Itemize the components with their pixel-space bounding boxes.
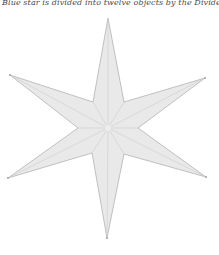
document-page: Blue star is divided into twelve objects…	[0, 0, 219, 255]
star-tip-node-0	[204, 77, 206, 79]
star-tip-node-3	[7, 177, 9, 179]
star-tip-node-2	[106, 237, 108, 239]
star-tip-node-4	[9, 74, 11, 76]
star-tip-node-1	[205, 176, 207, 178]
star-center-node	[105, 125, 111, 131]
star-figure	[0, 0, 219, 255]
